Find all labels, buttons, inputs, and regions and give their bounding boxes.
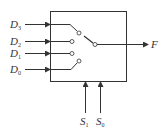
contact-d0: [77, 59, 81, 63]
contact-d2: [70, 40, 74, 44]
input-d1: D1: [9, 47, 74, 60]
contact-d3: [77, 31, 81, 35]
label-d3: D3: [9, 18, 21, 31]
label-s0: S0: [96, 115, 105, 128]
select-s0: S0: [96, 82, 105, 128]
switch-blade: [84, 36, 93, 43]
contact-d1: [70, 52, 74, 56]
select-s1: S1: [80, 82, 89, 128]
label-d0: D0: [9, 63, 21, 76]
label-s1: S1: [80, 115, 89, 128]
input-d0: D0: [9, 59, 81, 76]
mux-diagram: D3 D2 D1 D0 F S1 S0: [0, 0, 167, 137]
switch-pivot: [93, 43, 97, 47]
input-d3: D3: [9, 18, 81, 35]
label-d1: D1: [9, 47, 21, 60]
input-d2: D2: [9, 35, 74, 48]
mux-box: [51, 12, 127, 82]
output-f: F: [97, 38, 158, 50]
label-f: F: [150, 38, 158, 50]
